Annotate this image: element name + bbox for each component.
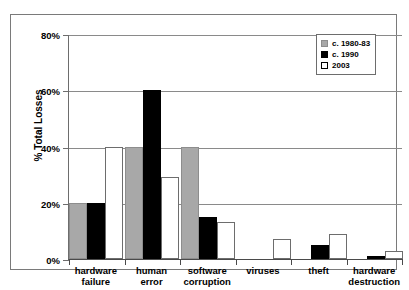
bar-group: [69, 35, 125, 259]
bar: [143, 90, 161, 259]
bar: [181, 147, 199, 260]
y-axis-tick-label: 20%: [41, 198, 60, 209]
x-axis-tick: [402, 259, 403, 265]
legend-item: 2003: [321, 60, 370, 71]
bar-group: [181, 35, 237, 259]
bar: [199, 217, 217, 259]
legend-swatch-icon: [321, 51, 328, 58]
bar-group: [237, 35, 293, 259]
bar: [273, 239, 291, 259]
legend-swatch-icon: [321, 62, 328, 69]
bar: [385, 251, 403, 259]
y-axis-tick-label: 60%: [41, 86, 60, 97]
bar: [161, 177, 179, 259]
bar: [367, 256, 385, 259]
x-axis-label: software corruption: [179, 265, 235, 287]
x-axis-label: theft: [291, 265, 347, 287]
x-axis-label: viruses: [235, 265, 291, 287]
bar-chart: % Total Losses 0%20%40%60%80% hardware f…: [0, 0, 409, 290]
legend-label: c. 1980-83: [332, 39, 370, 48]
y-axis-tick-label: 0%: [46, 255, 60, 266]
legend-item: c. 1990: [321, 49, 370, 60]
chart-frame: % Total Losses 0%20%40%60%80% hardware f…: [10, 14, 397, 270]
y-axis-title: % Total Losses: [33, 66, 44, 186]
y-axis-tick-label: 80%: [41, 30, 60, 41]
bar: [87, 203, 105, 259]
bar-group-bars: [69, 35, 125, 259]
bar: [105, 147, 123, 260]
chart-legend: c. 1980-83c. 19902003: [316, 34, 376, 75]
x-axis-labels: hardware failurehuman errorsoftware corr…: [68, 265, 402, 287]
legend-label: 2003: [332, 61, 350, 70]
bar: [69, 203, 87, 259]
bar: [329, 234, 347, 259]
bar-group: [125, 35, 181, 259]
bar: [125, 147, 143, 260]
y-axis-tick-label: 40%: [41, 142, 60, 153]
bar-group-bars: [181, 35, 237, 259]
legend-swatch-icon: [321, 40, 328, 47]
bar: [217, 222, 235, 259]
bar-group-bars: [237, 35, 293, 259]
bar: [311, 245, 329, 259]
legend-label: c. 1990: [332, 50, 359, 59]
bar-group-bars: [125, 35, 181, 259]
x-axis-label: human error: [124, 265, 180, 287]
x-axis-label: hardware failure: [68, 265, 124, 287]
legend-item: c. 1980-83: [321, 38, 370, 49]
x-axis-label: hardware destruction: [346, 265, 402, 287]
